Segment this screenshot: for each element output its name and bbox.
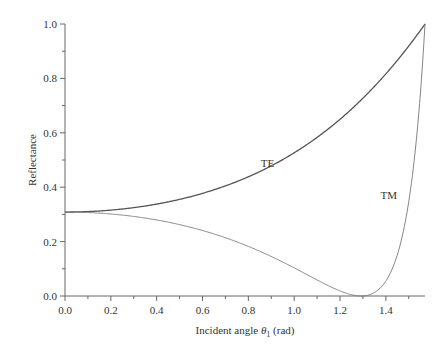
reflectance-chart: 0.00.20.40.60.81.01.21.40.00.20.40.60.81…: [0, 0, 447, 352]
y-tick-label: 0.8: [43, 72, 57, 84]
te-curve: [65, 24, 425, 212]
x-tick-label: 1.4: [379, 304, 393, 316]
ticks: 0.00.20.40.60.81.01.21.40.00.20.40.60.81…: [43, 18, 409, 316]
x-tick-label: 0.4: [150, 304, 164, 316]
x-tick-label: 0.2: [104, 304, 118, 316]
y-tick-label: 1.0: [43, 18, 57, 30]
y-axis-label: Reflectance: [26, 134, 38, 186]
x-tick-label: 0.6: [196, 304, 210, 316]
x-axis-label: Incident angle θ1 (rad): [196, 324, 295, 339]
axes: [65, 24, 425, 296]
x-tick-label: 1.0: [287, 304, 301, 316]
y-tick-label: 0.6: [43, 127, 57, 139]
y-tick-label: 0.2: [43, 236, 57, 248]
x-tick-label: 0.0: [58, 304, 72, 316]
curves: [65, 24, 425, 296]
te-label: TE: [261, 157, 275, 169]
x-axis-label-suffix: (rad): [270, 324, 294, 337]
y-tick-label: 0.4: [43, 181, 57, 193]
y-tick-label: 0.0: [43, 290, 57, 302]
x-tick-label: 1.2: [333, 304, 347, 316]
x-axis-label-prefix: Incident angle: [196, 324, 261, 336]
tm-curve: [65, 24, 425, 296]
x-tick-label: 0.8: [241, 304, 255, 316]
tm-label: TM: [380, 189, 397, 201]
